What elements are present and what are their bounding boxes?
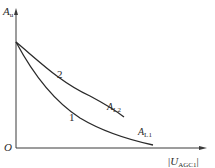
curve-2-end-label-sub: L2 [113, 106, 121, 114]
x-axis-label-main: U [170, 155, 178, 167]
curve-1-end-label: AL1 [138, 127, 152, 139]
y-axis-label: Au [3, 6, 13, 19]
x-axis-label: |UAGC1| [168, 156, 199, 168]
y-axis-label-sub: u [10, 11, 14, 19]
curve-1-end-label-sub: L1 [144, 131, 152, 139]
x-axis-arrow-icon [199, 146, 207, 150]
y-axis-arrow-icon [14, 8, 18, 15]
y-axis-label-main: A [3, 5, 10, 17]
curve-2-end-label: AL2 [107, 102, 121, 114]
curve-2-number-label: 2 [57, 69, 63, 80]
curve-1-number-label: 1 [69, 112, 75, 123]
origin-label: O [4, 142, 12, 153]
agc-gain-chart [0, 0, 215, 168]
x-axis-label-suffix: | [196, 155, 198, 167]
x-axis-label-sub: AGC1 [178, 161, 196, 168]
